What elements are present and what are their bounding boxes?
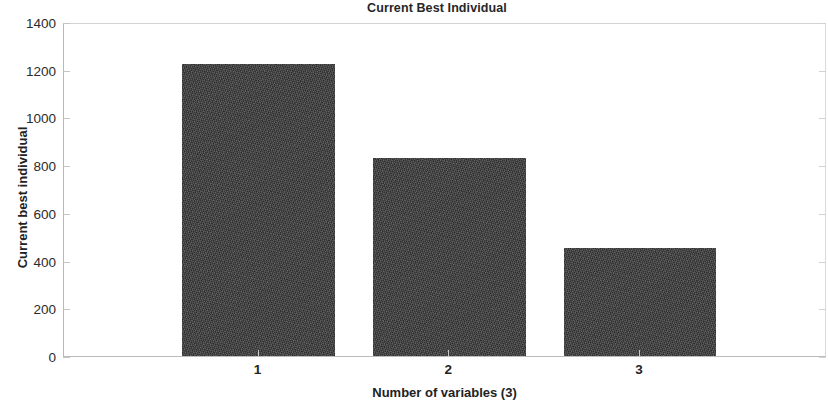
y-tick-label: 1400 [0, 16, 56, 31]
x-tick-mark [639, 350, 640, 357]
y-tick-mark-right [819, 309, 826, 310]
y-tick-mark [63, 118, 70, 119]
y-axis-label: Current best individual [15, 58, 30, 338]
x-tick-label: 1 [238, 362, 278, 377]
y-tick-mark-right [819, 357, 826, 358]
x-tick-mark [448, 350, 449, 357]
bar [564, 248, 717, 356]
y-tick-mark-right [819, 262, 826, 263]
y-tick-mark [63, 262, 70, 263]
figure-canvas: Current Best Individual 0200400600800100… [0, 0, 828, 407]
y-tick-mark [63, 166, 70, 167]
y-tick-mark-right [819, 118, 826, 119]
y-tick-mark-right [819, 214, 826, 215]
y-tick-mark-right [819, 166, 826, 167]
x-axis-label: Number of variables (3) [63, 385, 826, 400]
chart-title: Current Best Individual [0, 1, 828, 15]
y-tick-mark [63, 23, 70, 24]
bars-layer [64, 24, 825, 356]
bar [373, 158, 526, 356]
y-tick-mark [63, 309, 70, 310]
y-tick-mark-right [819, 23, 826, 24]
y-tick-mark [63, 214, 70, 215]
bar [182, 64, 335, 356]
y-tick-mark [63, 71, 70, 72]
y-tick-mark-right [819, 71, 826, 72]
x-tick-label: 3 [619, 362, 659, 377]
y-tick-mark [63, 357, 70, 358]
plot-area [63, 23, 826, 357]
x-tick-mark [258, 350, 259, 357]
x-tick-label: 2 [428, 362, 468, 377]
y-tick-label: 0 [0, 350, 56, 365]
